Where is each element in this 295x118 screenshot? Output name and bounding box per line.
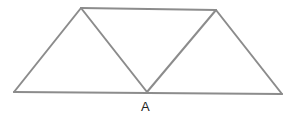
edge-top-left-to-a [81,8,147,92]
edge-left-side [14,8,81,92]
edge-a-to-top-right [147,10,216,92]
edge-top [81,8,216,10]
edge-right-side [216,10,282,94]
point-a-label: A [141,100,150,113]
